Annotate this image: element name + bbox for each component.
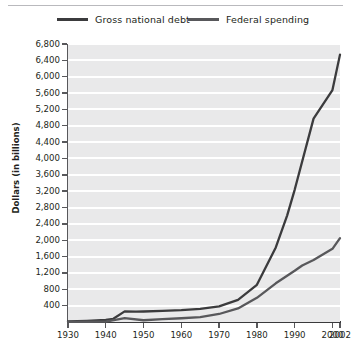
- x-axis-tick: [143, 323, 144, 328]
- x-axis-tick-label: 1950: [124, 331, 164, 340]
- y-axis-tick-label: 1,600: [0, 252, 60, 261]
- chart-container: Gross national debt Federal spending Dol…: [0, 0, 351, 355]
- y-axis-tick-label: 6,400: [0, 56, 60, 65]
- y-axis-tick: [62, 174, 67, 175]
- legend-label: Federal spending: [226, 14, 309, 25]
- x-axis-tick: [256, 323, 257, 328]
- top-divider: [8, 5, 343, 6]
- y-axis-tick: [62, 207, 67, 208]
- y-axis-tick: [62, 60, 67, 61]
- y-axis-tick: [62, 190, 67, 191]
- y-axis-tick: [62, 272, 67, 273]
- y-axis-tick-label: 800: [0, 285, 60, 294]
- plot-area: [68, 44, 340, 322]
- x-axis-tick: [339, 323, 340, 328]
- y-axis-tick-label: 4,000: [0, 154, 60, 163]
- y-axis-tick-label: 400: [0, 301, 60, 310]
- y-axis-tick: [62, 223, 67, 224]
- x-axis-tick: [218, 323, 219, 328]
- y-axis-tick: [62, 109, 67, 110]
- y-axis-tick-label: 1,200: [0, 268, 60, 277]
- y-axis-tick-label: 2,000: [0, 236, 60, 245]
- legend-item-federal-spending: Federal spending: [188, 14, 309, 25]
- y-axis-tick: [62, 305, 67, 306]
- x-axis-tick-label: 1980: [237, 331, 277, 340]
- y-axis-tick-label: 3,200: [0, 187, 60, 196]
- y-axis-tick-label: 4,800: [0, 121, 60, 130]
- y-axis-tick-label: 3,600: [0, 170, 60, 179]
- legend-label: Gross national debt: [95, 14, 190, 25]
- y-axis-tick-label: 5,600: [0, 89, 60, 98]
- legend-item-gross-national-debt: Gross national debt: [57, 14, 190, 25]
- y-axis-tick: [62, 158, 67, 159]
- x-axis-tick: [67, 323, 68, 328]
- chart-legend: Gross national debt Federal spending: [0, 14, 351, 30]
- legend-swatch-icon: [188, 18, 219, 21]
- y-axis-tick: [62, 76, 67, 77]
- y-axis-tick: [62, 289, 67, 290]
- x-axis-tick-label: 1990: [275, 331, 315, 340]
- y-axis-tick: [62, 256, 67, 257]
- series-lines: [68, 44, 340, 322]
- y-axis-tick: [62, 43, 67, 44]
- y-axis-tick: [62, 125, 67, 126]
- x-axis-tick-label: 1940: [86, 331, 126, 340]
- y-axis-tick-label: 5,200: [0, 105, 60, 114]
- x-axis-tick: [105, 323, 106, 328]
- y-axis-tick: [62, 141, 67, 142]
- x-axis-tick-label: 1960: [161, 331, 201, 340]
- x-axis-tick: [332, 323, 333, 328]
- y-axis-tick-label: 6,800: [0, 40, 60, 49]
- y-axis-tick: [62, 240, 67, 241]
- x-axis-tick: [181, 323, 182, 328]
- y-axis-tick-label: 2,800: [0, 203, 60, 212]
- y-axis-tick-label: 6,000: [0, 72, 60, 81]
- y-axis-tick: [62, 92, 67, 93]
- series-line: [68, 55, 340, 322]
- y-axis-tick-label: 2,400: [0, 219, 60, 228]
- x-axis-tick-label: 1970: [199, 331, 239, 340]
- x-axis-tick-label: 2002: [320, 331, 351, 340]
- y-axis-tick-label: 4,400: [0, 138, 60, 147]
- legend-swatch-icon: [57, 18, 88, 21]
- x-axis-tick: [294, 323, 295, 328]
- x-axis-tick-label: 1930: [48, 331, 88, 340]
